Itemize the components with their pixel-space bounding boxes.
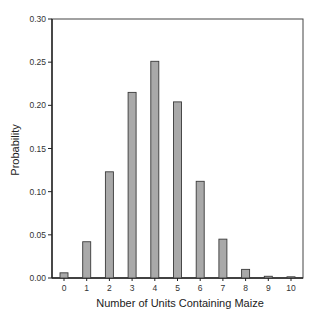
x-tick-label: 10 xyxy=(286,283,296,293)
bar-10 xyxy=(287,277,295,278)
bar-3 xyxy=(128,92,136,278)
bars-group xyxy=(60,61,295,278)
bar-0 xyxy=(60,273,68,278)
x-tick-label: 5 xyxy=(175,283,180,293)
x-tick-label: 1 xyxy=(84,283,89,293)
x-tick-label: 7 xyxy=(221,283,226,293)
bar-8 xyxy=(242,269,250,278)
x-tick-label: 9 xyxy=(266,283,271,293)
y-axis-ticks: 0.000.050.100.150.200.250.30 xyxy=(29,14,52,283)
bar-4 xyxy=(151,61,159,278)
bar-2 xyxy=(105,172,113,278)
bar-6 xyxy=(196,181,204,278)
y-tick-label: 0.00 xyxy=(29,273,46,283)
bar-7 xyxy=(219,239,227,278)
bar-9 xyxy=(264,276,272,278)
y-tick-label: 0.25 xyxy=(29,57,46,67)
y-tick-label: 0.15 xyxy=(29,144,46,154)
y-tick-label: 0.10 xyxy=(29,187,46,197)
y-tick-label: 0.05 xyxy=(29,230,46,240)
x-tick-label: 2 xyxy=(107,283,112,293)
x-axis-label: Number of Units Containing Maize xyxy=(96,297,264,309)
x-axis-ticks: 012345678910 xyxy=(62,278,296,293)
x-tick-label: 8 xyxy=(243,283,248,293)
x-tick-label: 4 xyxy=(152,283,157,293)
y-tick-label: 0.20 xyxy=(29,100,46,110)
x-tick-label: 0 xyxy=(62,283,67,293)
x-tick-label: 3 xyxy=(130,283,135,293)
bar-5 xyxy=(174,102,182,278)
bar-1 xyxy=(83,242,91,278)
y-tick-label: 0.30 xyxy=(29,14,46,24)
x-tick-label: 6 xyxy=(198,283,203,293)
bar-chart: 0.000.050.100.150.200.250.30 01234567891… xyxy=(0,0,316,319)
y-axis-label: Probability xyxy=(9,124,21,176)
